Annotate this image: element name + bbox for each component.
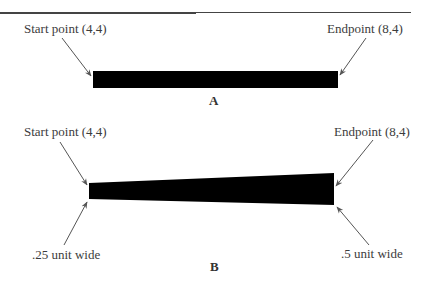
label-a-start-point: Start point (4,4) <box>24 21 107 37</box>
arrow-a-start <box>62 38 91 76</box>
label-b-endpoint: Endpoint (8,4) <box>334 124 410 140</box>
arrow-b-start <box>60 142 87 185</box>
arrow-b-end <box>336 140 373 186</box>
arrow-b-width-start <box>64 202 87 245</box>
label-b-end-width: .5 unit wide <box>341 246 403 262</box>
line-a-rectangle <box>93 71 338 88</box>
diagram-canvas <box>0 0 429 282</box>
label-b-start-point: Start point (4,4) <box>24 124 107 140</box>
caption-b: B <box>210 259 219 275</box>
caption-a: A <box>209 93 218 109</box>
label-a-endpoint: Endpoint (8,4) <box>327 21 403 37</box>
line-b-tapered-shape <box>89 173 334 205</box>
arrow-b-width-end <box>337 207 369 245</box>
arrow-a-end <box>340 38 366 75</box>
label-b-start-width: .25 unit wide <box>32 247 100 263</box>
